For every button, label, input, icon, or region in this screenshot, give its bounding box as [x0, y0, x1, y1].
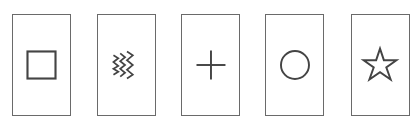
wavy-lines-icon [98, 15, 155, 115]
card-circle [265, 14, 324, 116]
card-waves [97, 14, 156, 116]
card-square [12, 14, 71, 116]
plus-icon [182, 15, 239, 115]
circle-icon [266, 15, 323, 115]
star-icon [352, 15, 409, 115]
card-plus [181, 14, 240, 116]
card-star [351, 14, 410, 116]
square-icon [13, 15, 70, 115]
